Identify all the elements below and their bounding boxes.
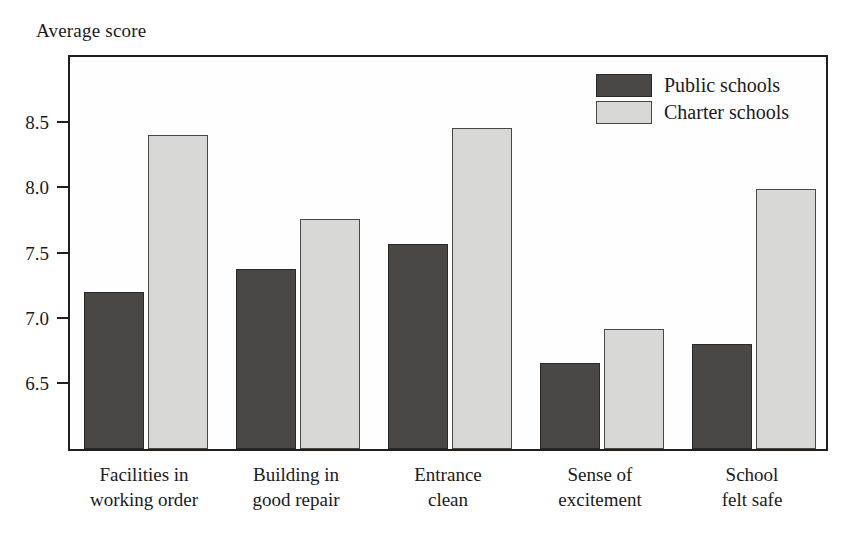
y-axis-tick-label: 6.5 (25, 373, 49, 395)
bar-group (236, 57, 360, 449)
legend-item-charter: Charter schools (596, 99, 826, 126)
y-axis-tick: 6.5 (57, 382, 70, 384)
x-axis-label-line: felt safe (676, 487, 828, 512)
legend-label-public-schools: Public schools (664, 74, 780, 97)
x-axis-label-line: School (676, 462, 828, 487)
bar-charter (756, 189, 816, 449)
bar-public (692, 344, 752, 449)
legend-swatch-charter-schools (596, 101, 652, 124)
bar-chart-figure: Average score 6.57.07.58.08.5 Facilities… (0, 0, 862, 555)
x-axis-label: Entranceclean (372, 462, 524, 512)
legend-item-public: Public schools (596, 72, 826, 99)
y-axis-tick: 8.5 (57, 121, 70, 123)
y-axis-tick-label: 7.5 (25, 243, 49, 265)
bar-charter (452, 128, 512, 450)
bar-group (388, 57, 512, 449)
bar-public (540, 363, 600, 449)
x-axis-label-line: Facilities in (68, 462, 220, 487)
y-axis-tick-label: 8.5 (25, 112, 49, 134)
x-axis-label-line: Entrance (372, 462, 524, 487)
y-axis-tick-label: 8.0 (25, 177, 49, 199)
chart-legend: Public schools Charter schools (596, 72, 826, 126)
y-axis-tick: 7.0 (57, 317, 70, 319)
y-axis-tick: 8.0 (57, 186, 70, 188)
bar-charter (604, 329, 664, 449)
y-axis-tick-label: 7.0 (25, 308, 49, 330)
bar-public (236, 269, 296, 449)
legend-swatch-public-schools (596, 74, 652, 97)
x-axis-label-line: working order (68, 487, 220, 512)
bar-public (84, 292, 144, 449)
bar-public (388, 244, 448, 449)
x-axis-label: Sense ofexcitement (524, 462, 676, 512)
bar-group (84, 57, 208, 449)
x-axis-label-line: good repair (220, 487, 372, 512)
bar-charter (300, 219, 360, 449)
x-axis-label: Schoolfelt safe (676, 462, 828, 512)
legend-label-charter-schools: Charter schools (664, 101, 789, 124)
x-axis-label-line: Sense of (524, 462, 676, 487)
x-axis-label-line: excitement (524, 487, 676, 512)
bar-charter (148, 135, 208, 449)
x-axis-label-line: clean (372, 487, 524, 512)
x-axis-label: Facilities inworking order (68, 462, 220, 512)
y-axis-tick: 7.5 (57, 252, 70, 254)
x-axis-label-line: Building in (220, 462, 372, 487)
x-axis-label: Building ingood repair (220, 462, 372, 512)
y-axis-title: Average score (36, 20, 146, 42)
